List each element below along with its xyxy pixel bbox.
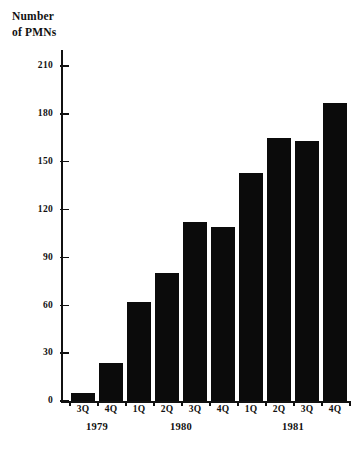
y-axis-tick: 120 <box>60 209 69 211</box>
bar <box>323 103 348 401</box>
x-axis-tick-label: 3Q <box>301 404 314 414</box>
x-axis-group-label: 1979 <box>86 421 108 432</box>
x-axis-tick-label: 4Q <box>217 404 230 414</box>
bar <box>127 302 152 401</box>
y-axis-tick: 180 <box>60 113 69 115</box>
y-axis-tick: 90 <box>60 257 69 259</box>
bar-chart-figure: Number of PMNs 0306090120150180210 3Q4Q1… <box>0 0 360 455</box>
y-axis-tick-label: 120 <box>38 204 53 214</box>
y-axis-tick-label: 30 <box>43 347 53 357</box>
y-axis-tick-label: 210 <box>38 60 53 70</box>
x-axis-group-label: 1981 <box>282 421 304 432</box>
x-axis-group-labels: 197919801981 <box>61 421 356 439</box>
x-axis-tick-label: 1Q <box>245 404 258 414</box>
chart-title: Number of PMNs <box>12 8 152 41</box>
x-axis-tick-label: 3Q <box>189 404 202 414</box>
y-axis-tick-label: 90 <box>43 251 53 261</box>
bar <box>155 273 180 401</box>
y-axis-line <box>61 50 63 403</box>
x-axis-group-label: 1980 <box>170 421 192 432</box>
bar <box>267 138 292 401</box>
x-axis-line <box>61 401 349 403</box>
y-axis-tick-label: 180 <box>38 108 53 118</box>
bar <box>183 222 208 401</box>
y-axis-tick: 30 <box>60 352 69 354</box>
y-axis-tick-label: 0 <box>48 395 53 405</box>
bar <box>71 393 96 401</box>
x-axis-tick-label: 4Q <box>329 404 342 414</box>
x-axis-tick-label: 2Q <box>161 404 174 414</box>
x-axis-tick-label: 2Q <box>273 404 286 414</box>
x-axis-tick-labels: 3Q4Q1Q2Q3Q4Q1Q2Q3Q4Q <box>61 404 356 420</box>
y-axis-tick: 210 <box>60 65 69 67</box>
y-axis-tick-label: 60 <box>43 299 53 309</box>
plot-area: 0306090120150180210 <box>61 50 349 403</box>
bar <box>295 141 320 401</box>
x-axis-tick-label: 4Q <box>105 404 118 414</box>
bar <box>99 363 124 401</box>
y-axis-tick: 150 <box>60 161 69 163</box>
x-axis-tick-label: 3Q <box>77 404 90 414</box>
y-axis-tick: 60 <box>60 305 69 307</box>
y-axis-tick: 0 <box>60 400 69 402</box>
x-axis-tick-label: 1Q <box>133 404 146 414</box>
bar <box>211 227 236 401</box>
bars-layer <box>69 50 349 401</box>
bar <box>239 173 264 401</box>
y-axis-tick-label: 150 <box>38 156 53 166</box>
